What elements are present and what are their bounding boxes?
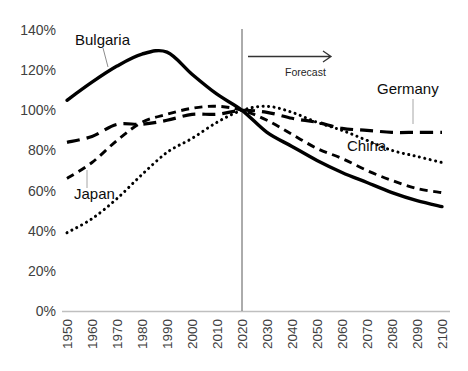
y-tick-label: 20% [28,263,56,279]
x-tick-label: 2090 [410,319,425,349]
x-tick-label: 1960 [85,319,100,349]
bulgaria-label-leader-line [103,48,108,67]
x-tick-label: 1990 [160,319,175,349]
y-tick-label: 80% [28,142,56,158]
series-label-bulgaria: Bulgaria [75,32,130,48]
y-tick-label: 140% [20,22,56,38]
y-tick-label: 100% [20,102,56,118]
population-index-chart: 0%20%40%60%80%100%120%140%19501960197019… [0,0,468,371]
y-tick-label: 60% [28,183,56,199]
series-label-germany: Germany [377,81,439,97]
series-label-japan: Japan [74,186,115,202]
x-tick-label: 1980 [135,319,150,349]
x-tick-label: 2010 [210,319,225,349]
y-tick-label: 120% [20,62,56,78]
x-tick-label: 1950 [60,319,75,349]
chart-plot-svg: 0%20%40%60%80%100%120%140%19501960197019… [0,0,468,371]
y-tick-label: 40% [28,223,56,239]
x-tick-label: 2030 [260,319,275,349]
x-tick-label: 1970 [110,319,125,349]
x-tick-label: 2020 [235,319,250,349]
x-tick-label: 2060 [335,319,350,349]
x-tick-label: 2100 [435,319,450,349]
x-tick-label: 2040 [285,319,300,349]
x-tick-label: 2080 [385,319,400,349]
forecast-arrow-icon [248,51,331,62]
x-tick-label: 2000 [185,319,200,349]
series-line-bulgaria [67,51,442,207]
x-tick-label: 2070 [360,319,375,349]
x-tick-label: 2050 [310,319,325,349]
series-label-china: China [347,138,386,154]
forecast-annotation-label: Forecast [285,67,326,78]
y-tick-label: 0% [36,303,56,319]
series-line-china [67,106,442,232]
